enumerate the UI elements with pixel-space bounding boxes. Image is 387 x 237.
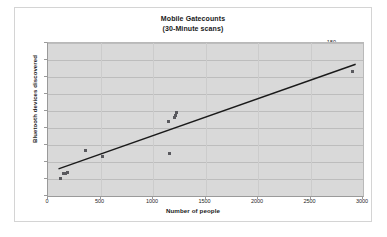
- data-point: [351, 70, 354, 73]
- data-point: [167, 120, 170, 123]
- plot-area: [47, 42, 364, 197]
- data-point: [175, 111, 178, 114]
- chart-title-main: Mobile Gatecounts: [15, 14, 371, 24]
- x-axis-title: Number of people: [15, 207, 371, 214]
- y-axis-title: Bluetooth devices discovered: [32, 34, 38, 164]
- gridline-x-2000: [258, 43, 259, 196]
- chart-subtitle: (30-Minute scans): [15, 24, 371, 34]
- gridline-x-500: [101, 43, 102, 196]
- chart-title: Mobile Gatecounts (30-Minute scans): [15, 14, 371, 33]
- data-point: [101, 155, 104, 158]
- gridline-x-1000: [153, 43, 154, 196]
- data-point: [59, 177, 62, 180]
- gridline-x-1500: [206, 43, 207, 196]
- data-point: [66, 171, 69, 174]
- data-point: [168, 152, 171, 155]
- data-point: [174, 114, 177, 117]
- data-point: [84, 149, 87, 152]
- gridline-x-2500: [311, 43, 312, 196]
- chart-frame: Mobile Gatecounts (30-Minute scans) Blue…: [14, 7, 372, 222]
